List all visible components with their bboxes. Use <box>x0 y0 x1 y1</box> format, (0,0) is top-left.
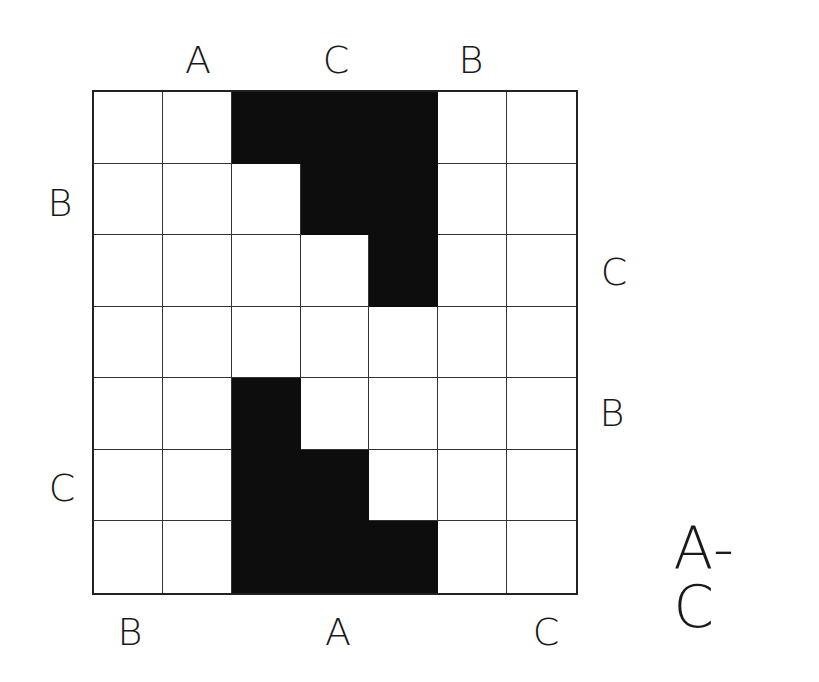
grid-cell-r2-c0 <box>94 235 163 307</box>
left-label-2: C <box>49 469 76 507</box>
grid-cell-r5-c5 <box>438 450 507 522</box>
grid-cell-r6-c5 <box>438 521 507 593</box>
grid-cell-r3-c1 <box>163 307 232 379</box>
left-label-1: B <box>48 184 73 222</box>
grid-cell-r1-c1 <box>163 164 232 236</box>
grid-cell-r1-c5 <box>438 164 507 236</box>
grid-cell-r4-c4 <box>369 378 438 450</box>
right-label-2: B <box>600 394 625 432</box>
grid-cell-r6-c4 <box>369 521 438 593</box>
top-label-2: C <box>323 41 350 79</box>
grid-cell-r4-c0 <box>94 378 163 450</box>
grid-cell-r1-c4 <box>369 164 438 236</box>
grid-cell-r4-c6 <box>507 378 576 450</box>
top-label-1: A <box>185 41 211 79</box>
grid-cell-r5-c3 <box>301 450 370 522</box>
grid-cell-r6-c1 <box>163 521 232 593</box>
grid-cell-r3-c0 <box>94 307 163 379</box>
grid-cell-r2-c2 <box>232 235 301 307</box>
grid-cell-r0-c2 <box>232 92 301 164</box>
grid-cell-r3-c2 <box>232 307 301 379</box>
grid-cell-r4-c1 <box>163 378 232 450</box>
grid-cell-r3-c5 <box>438 307 507 379</box>
grid-cell-r0-c3 <box>301 92 370 164</box>
bottom-label-3: C <box>533 613 560 651</box>
top-label-3: B <box>459 41 484 79</box>
grid-cell-r0-c6 <box>507 92 576 164</box>
right-label-1: C <box>601 253 628 291</box>
grid-cell-r1-c0 <box>94 164 163 236</box>
grid-cell-r0-c5 <box>438 92 507 164</box>
grid-cell-r6-c0 <box>94 521 163 593</box>
grid-cell-r2-c1 <box>163 235 232 307</box>
grid-cell-r5-c6 <box>507 450 576 522</box>
grid-cell-r1-c3 <box>301 164 370 236</box>
bottom-label-2: A <box>325 613 351 651</box>
bottom-label-1: B <box>118 613 143 651</box>
grid-cell-r0-c1 <box>163 92 232 164</box>
grid-cell-r1-c6 <box>507 164 576 236</box>
grid-cell-r3-c3 <box>301 307 370 379</box>
grid-cell-r2-c3 <box>301 235 370 307</box>
grid-cell-r2-c4 <box>369 235 438 307</box>
puzzle-grid <box>92 90 578 595</box>
grid-cell-r5-c0 <box>94 450 163 522</box>
grid-cell-r5-c2 <box>232 450 301 522</box>
grid-cell-r4-c2 <box>232 378 301 450</box>
grid-cell-r6-c6 <box>507 521 576 593</box>
puzzle-title: A-C <box>674 520 771 636</box>
grid-cell-r6-c3 <box>301 521 370 593</box>
grid-cell-r2-c6 <box>507 235 576 307</box>
grid-cell-r4-c5 <box>438 378 507 450</box>
grid-cell-r5-c1 <box>163 450 232 522</box>
grid-cell-r0-c0 <box>94 92 163 164</box>
grid-cell-r4-c3 <box>301 378 370 450</box>
grid-cell-r3-c6 <box>507 307 576 379</box>
grid-cell-r3-c4 <box>369 307 438 379</box>
grid-cell-r2-c5 <box>438 235 507 307</box>
grid-cell-r0-c4 <box>369 92 438 164</box>
grid-cell-r1-c2 <box>232 164 301 236</box>
grid-cell-r6-c2 <box>232 521 301 593</box>
grid-cell-r5-c4 <box>369 450 438 522</box>
